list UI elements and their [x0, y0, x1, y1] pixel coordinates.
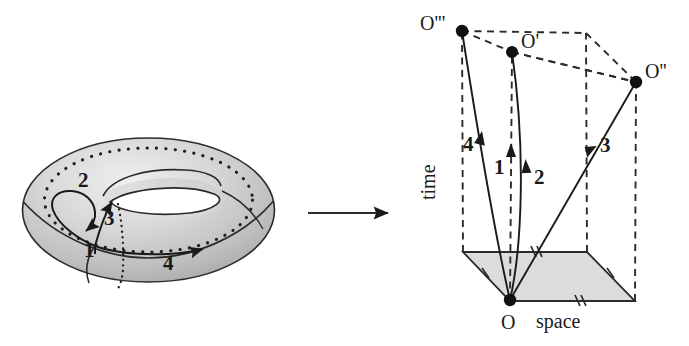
arrowhead-1 — [506, 143, 516, 157]
vertex-Opp-dot — [630, 76, 642, 88]
torus-label-4: 4 — [163, 253, 174, 274]
spacetime-label-1: 1 — [494, 157, 505, 178]
spacetime-graphic — [456, 25, 642, 306]
arrowhead-4 — [474, 130, 487, 146]
vertex-O-dot — [504, 294, 516, 306]
time-axis-label: time — [418, 164, 438, 200]
torus-graphic — [23, 138, 275, 290]
arrowhead-3 — [582, 142, 597, 159]
vertex-Oppp-dot — [456, 25, 468, 37]
figure-graphics — [0, 0, 689, 346]
torus-label-2: 2 — [78, 170, 89, 191]
figure-root: 1 2 3 4 O''' O' O'' O 4 1 2 3 time space — [0, 0, 689, 346]
riser-back-right — [586, 33, 587, 252]
spacetime-label-4: 4 — [463, 134, 474, 155]
top-edge-diag-a — [462, 31, 512, 52]
torus-label-3: 3 — [104, 208, 115, 229]
label-O: O — [501, 312, 515, 332]
label-O-triple-prime: O''' — [420, 13, 445, 33]
spacetime-label-3: 3 — [600, 135, 611, 156]
label-O-double-prime: O'' — [645, 61, 667, 81]
top-edge-right — [586, 33, 636, 82]
label-O-prime: O' — [521, 31, 539, 51]
torus-label-1: 1 — [84, 240, 95, 261]
riser-front-right — [635, 82, 636, 301]
spacetime-label-2: 2 — [534, 167, 545, 188]
space-axis-label: space — [536, 311, 580, 331]
arrowhead-2 — [521, 159, 532, 174]
edge-Op-Opp — [512, 52, 636, 82]
vertex-Op-dot — [506, 46, 518, 58]
